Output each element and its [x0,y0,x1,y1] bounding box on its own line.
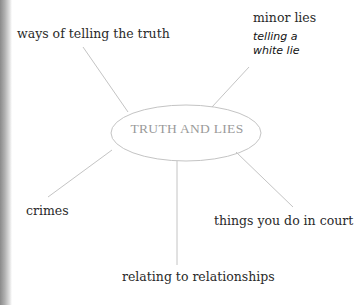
branch-crimes: crimes [26,203,69,218]
handwritten-answer-line-1: telling a [253,30,297,44]
link-crimes [48,150,112,197]
branch-minor-lies: minor lies [253,10,316,25]
branch-relationships: relating to relationships [122,269,275,284]
handwritten-answer-line-2: white lie [253,44,299,58]
center-topic: TRUTH AND LIES [118,121,256,137]
mind-map-links [0,0,354,305]
branch-ways-of-telling-truth: ways of telling the truth [17,26,170,41]
branch-court: things you do in court [214,213,353,228]
link-truth [83,47,128,112]
link-minor-lies [212,67,249,107]
link-court [236,152,293,207]
